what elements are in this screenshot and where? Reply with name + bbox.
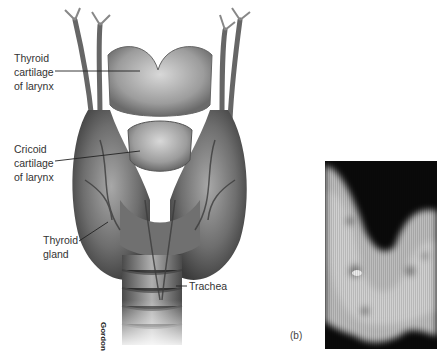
label-line: cartilage	[14, 65, 54, 79]
label-line: Thyroid	[43, 233, 78, 247]
label-line: of larynx	[14, 79, 54, 93]
label-line: of larynx	[14, 170, 54, 184]
label-thyroid-cartilage: Thyroid cartilage of larynx	[14, 51, 54, 93]
thyroid-scan-image	[325, 161, 437, 349]
label-line: cartilage	[14, 156, 54, 170]
thyroid-cartilage-shape	[108, 47, 212, 117]
panel-label-b: (b)	[290, 330, 302, 341]
cricoid-cartilage-shape	[128, 121, 192, 171]
label-line: Cricoid	[14, 142, 54, 156]
label-cricoid-cartilage: Cricoid cartilage of larynx	[14, 142, 54, 184]
label-line: Thyroid	[14, 51, 54, 65]
label-line: gland	[43, 247, 78, 261]
label-thyroid-gland: Thyroid gland	[43, 233, 78, 261]
label-trachea: Trachea	[189, 279, 227, 293]
label-line: Trachea	[189, 279, 227, 293]
artist-credit: Gordon	[99, 322, 108, 351]
